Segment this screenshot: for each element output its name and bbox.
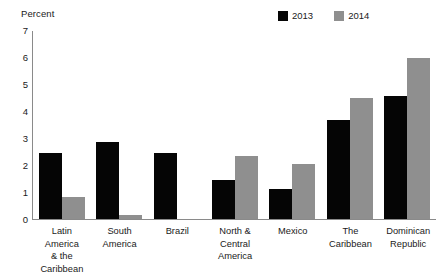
x-axis-category-labels: Latin America & the CaribbeanSouth Ameri… bbox=[33, 225, 437, 275]
bar-group bbox=[33, 31, 91, 219]
bar-2014[interactable] bbox=[292, 164, 315, 219]
bar-group bbox=[91, 31, 149, 219]
bar-group bbox=[206, 31, 264, 219]
bar-group bbox=[321, 31, 379, 219]
bar-2013[interactable] bbox=[39, 153, 62, 219]
x-category-label: Brazil bbox=[148, 225, 206, 275]
bar-2013[interactable] bbox=[327, 120, 350, 219]
bar-group bbox=[378, 31, 436, 219]
legend-label-2014: 2014 bbox=[348, 11, 369, 21]
plot-area: 76543210 bbox=[32, 31, 436, 220]
bar-groups bbox=[33, 31, 436, 219]
x-category-label: Latin America & the Caribbean bbox=[33, 225, 91, 275]
y-axis-title: Percent bbox=[21, 8, 54, 19]
bar-2014[interactable] bbox=[62, 197, 85, 219]
y-tick-label: 3 bbox=[10, 134, 28, 144]
legend-entry-2013: 2013 bbox=[278, 11, 313, 21]
chart-legend: 2013 2014 bbox=[278, 11, 369, 21]
legend-swatch-2013 bbox=[278, 11, 288, 21]
bar-2014[interactable] bbox=[235, 156, 258, 219]
bar-2014[interactable] bbox=[119, 215, 142, 219]
bar-2013[interactable] bbox=[96, 142, 119, 219]
y-tick-label: 7 bbox=[10, 26, 28, 36]
legend-entry-2014: 2014 bbox=[334, 11, 369, 21]
x-category-label: Mexico bbox=[264, 225, 322, 275]
y-axis-tick-labels: 76543210 bbox=[10, 31, 28, 220]
x-category-label: South America bbox=[91, 225, 149, 275]
bar-2014[interactable] bbox=[350, 98, 373, 220]
x-axis-line bbox=[32, 219, 436, 220]
y-tick-label: 0 bbox=[10, 215, 28, 225]
y-tick-label: 4 bbox=[10, 107, 28, 117]
y-tick-label: 5 bbox=[10, 80, 28, 90]
bar-chart: Percent 2013 2014 76543210 Latin America… bbox=[0, 0, 442, 278]
bar-2014[interactable] bbox=[407, 58, 430, 219]
bar-2013[interactable] bbox=[212, 180, 235, 219]
legend-label-2013: 2013 bbox=[292, 11, 313, 21]
legend-swatch-2014 bbox=[334, 11, 344, 21]
y-tick-label: 2 bbox=[10, 161, 28, 171]
bar-2013[interactable] bbox=[154, 153, 177, 219]
x-category-label: The Caribbean bbox=[322, 225, 380, 275]
bar-group bbox=[148, 31, 206, 219]
x-category-label: North & Central America bbox=[206, 225, 264, 275]
x-category-label: Dominican Republic bbox=[379, 225, 437, 275]
y-tick-label: 1 bbox=[10, 188, 28, 198]
bar-group bbox=[263, 31, 321, 219]
bar-2013[interactable] bbox=[269, 189, 292, 219]
y-tick-label: 6 bbox=[10, 53, 28, 63]
bar-2013[interactable] bbox=[384, 96, 407, 219]
